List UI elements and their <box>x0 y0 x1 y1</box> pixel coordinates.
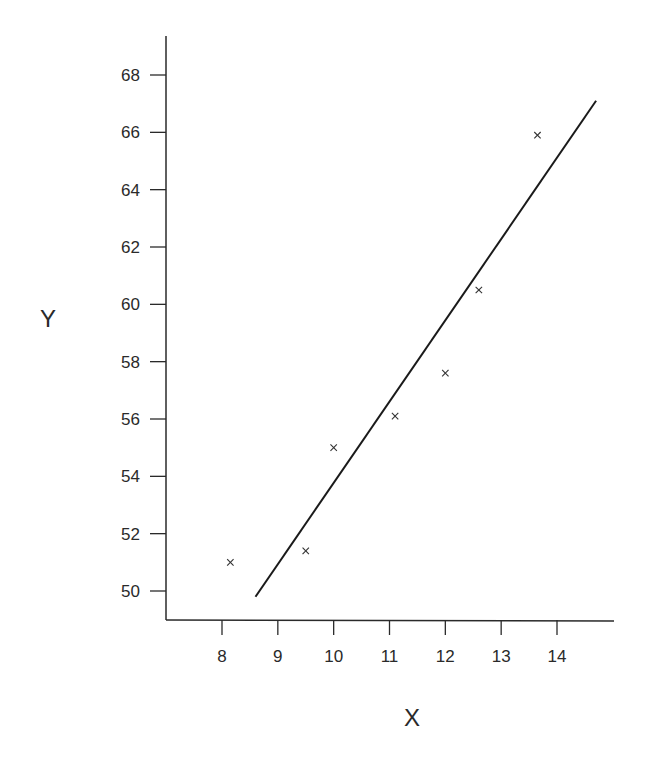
data-points <box>227 132 540 566</box>
y-tick-label: 56 <box>121 410 140 429</box>
x-axis-title: X <box>404 704 420 731</box>
data-point-x-marker <box>442 370 448 376</box>
x-tick-label: 11 <box>381 647 399 666</box>
data-point-x-marker <box>330 444 336 450</box>
y-tick-label: 62 <box>121 238 140 257</box>
y-tick-label: 50 <box>121 582 140 601</box>
y-tick-label: 60 <box>121 295 140 314</box>
data-point-x-marker <box>227 559 233 565</box>
y-tick-label: 58 <box>121 353 140 372</box>
data-point-x-marker <box>534 132 540 138</box>
x-tick-label: 14 <box>548 647 567 666</box>
y-axis-ticks: 50525456586062646668 <box>121 66 166 601</box>
x-tick-label: 12 <box>436 647 455 666</box>
data-point-x-marker <box>476 287 482 293</box>
axes <box>166 36 614 621</box>
y-tick-label: 66 <box>121 123 140 142</box>
regression-line <box>256 101 597 597</box>
x-tick-label: 13 <box>492 647 511 666</box>
x-tick-label: 9 <box>273 647 282 666</box>
y-tick-label: 54 <box>121 467 140 486</box>
x-axis-ticks: 891011121314 <box>217 620 566 666</box>
data-point-x-marker <box>392 413 398 419</box>
y-axis-title: Y <box>40 305 56 332</box>
x-tick-label: 8 <box>217 647 226 666</box>
y-tick-label: 52 <box>121 525 140 544</box>
x-tick-label: 10 <box>324 647 343 666</box>
data-point-x-marker <box>303 548 309 554</box>
scatter-chart: 50525456586062646668 891011121314 Y X <box>0 0 646 764</box>
fit-line <box>256 101 597 597</box>
y-tick-label: 68 <box>121 66 140 85</box>
y-tick-label: 64 <box>121 181 140 200</box>
